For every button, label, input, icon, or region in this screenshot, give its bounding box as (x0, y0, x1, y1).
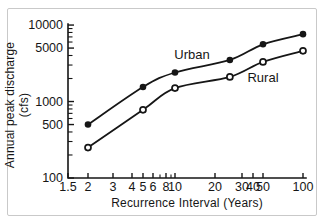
chart-svg: 10050010005000100001.5234568102030405010… (0, 0, 330, 224)
urban-data-point (140, 84, 147, 91)
rural-data-point (140, 107, 146, 113)
y-tick-label: 10000 (28, 18, 63, 32)
x-tick-label: 20 (208, 180, 222, 194)
rural-data-point (227, 74, 233, 80)
x-tick-label: 1.5 (59, 180, 76, 194)
x-tick-label: 3 (110, 180, 117, 194)
urban-data-point (260, 41, 267, 48)
y-tick-label: 5000 (35, 41, 63, 55)
urban-data-point (227, 57, 234, 64)
x-tick-label: 4 (129, 180, 136, 194)
rural-data-point (300, 48, 306, 54)
figure-page: { "figure": { "background": "#ffffff", "… (0, 0, 330, 224)
y-tick-label: 1000 (35, 95, 63, 109)
rural-series-label: Rural (247, 70, 278, 85)
x-tick-label: 10 (168, 180, 182, 194)
urban-series-label: Urban (174, 47, 209, 62)
x-tick-label: 100 (293, 180, 314, 194)
y-axis-title: Annual peak discharge (cfs) (3, 29, 31, 181)
x-tick-label: 5 (140, 180, 147, 194)
rural-data-point (172, 85, 178, 91)
x-tick-label: 50 (256, 180, 270, 194)
x-tick-label: 6 (150, 180, 157, 194)
x-tick-label: 2 (85, 180, 92, 194)
urban-data-point (300, 31, 307, 38)
rural-data-point (260, 59, 266, 65)
rural-series-line (88, 51, 303, 148)
rural-data-point (85, 145, 91, 151)
y-tick-label: 500 (42, 118, 63, 132)
urban-data-point (85, 121, 92, 128)
x-axis-title: Recurrence Interval (Years) (68, 196, 306, 210)
urban-data-point (172, 69, 179, 76)
